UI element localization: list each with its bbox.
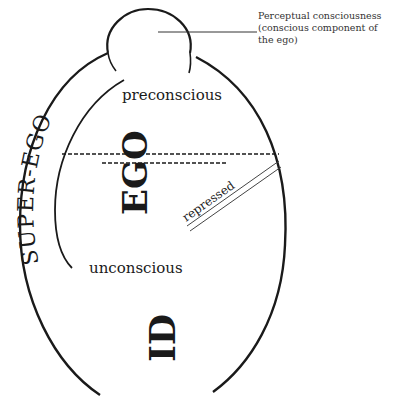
psyche-diagram: SUPER-EGO preconscious EGO repressed unc…: [0, 0, 401, 403]
callout-line-2: (conscious component of: [258, 22, 401, 34]
id-label: ID: [141, 314, 183, 362]
perceptual-consciousness-callout: Perceptual consciousness (conscious comp…: [258, 10, 401, 46]
preconscious-label: preconscious: [122, 86, 222, 104]
callout-line-3: the ego): [258, 34, 401, 46]
callout-line-1: Perceptual consciousness: [258, 10, 401, 22]
superego-label: SUPER-EGO: [13, 110, 57, 268]
unconscious-label: unconscious: [89, 259, 183, 277]
perceptual-consciousness-circle: [107, 9, 190, 53]
perceptual-circle-right-lower: [189, 53, 191, 73]
superego-inner-arc: [55, 80, 124, 268]
perceptual-circle-left-lower: [108, 53, 116, 71]
ego-label: EGO: [115, 130, 155, 215]
repressed-line-upper: [187, 161, 279, 226]
outer-oval-right: [196, 57, 286, 392]
